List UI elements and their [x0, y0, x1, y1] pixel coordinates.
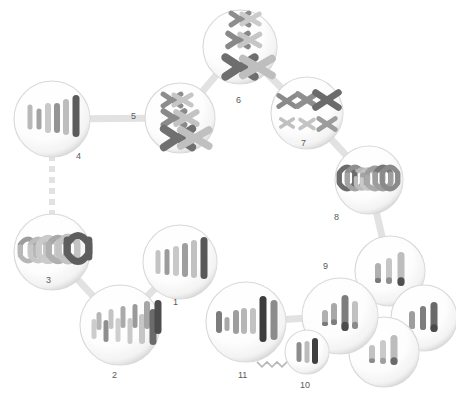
chromosome: [331, 303, 337, 325]
chromosome: [63, 99, 69, 135]
chromosome: [233, 310, 239, 334]
chromosome: [409, 311, 415, 329]
chromosome: [37, 109, 42, 130]
chromosome: [369, 345, 375, 363]
label-4: 4: [76, 152, 81, 161]
chromosome: [420, 306, 426, 330]
cell-5-prophase-i[interactable]: [145, 83, 215, 153]
chromosome: [322, 310, 328, 326]
cell-2-prophase[interactable]: [80, 285, 162, 365]
chromosome: [250, 308, 256, 334]
chromosome: [431, 302, 438, 332]
chromosome: [128, 318, 133, 344]
chromosome: [297, 342, 302, 362]
flagellum-tail: [257, 362, 287, 367]
label-10: 10: [300, 381, 310, 390]
chromosome: [375, 263, 381, 283]
chromosome: [312, 338, 318, 364]
label-2: 2: [112, 371, 117, 380]
chromosome: [92, 319, 97, 339]
cell-4-interphase[interactable]: [14, 81, 90, 157]
cell-6-metaphase-i[interactable]: [203, 10, 277, 84]
label-5: 5: [131, 112, 136, 121]
cell-1-g1-cell[interactable]: [143, 225, 217, 299]
chromosome: [380, 340, 386, 364]
label-1: 1: [173, 298, 178, 307]
label-3: 3: [46, 276, 51, 285]
chromosome-set: [20, 235, 89, 261]
chromosome: [391, 335, 398, 365]
meiosis-cycle-diagram: 1234567891011: [0, 0, 456, 396]
chromosome: [305, 341, 310, 363]
label-6: 6: [236, 96, 241, 105]
chromosome: [201, 237, 208, 279]
chromosome: [73, 95, 80, 137]
chromosome: [133, 304, 138, 328]
label-7: 7: [301, 139, 306, 148]
chromosome: [121, 306, 126, 328]
label-8: 8: [334, 213, 339, 222]
cell-8-anaphase-ii[interactable]: [335, 146, 403, 214]
chromosome: [45, 103, 51, 133]
cell-membrane-sheen: [271, 77, 343, 149]
chromosome: [260, 296, 267, 342]
label-9: 9: [323, 262, 328, 271]
chromosome: [156, 250, 161, 274]
chromosome: [109, 309, 114, 329]
chromosome: [104, 320, 109, 342]
chromosome: [54, 103, 60, 133]
chromosome: [155, 300, 162, 334]
cell-11-zygote[interactable]: [206, 282, 286, 362]
chromosome: [241, 308, 247, 334]
chromosome: [182, 243, 188, 277]
chromosome: [342, 295, 349, 331]
chromosome: [271, 300, 278, 340]
chromosome: [165, 249, 170, 275]
chromosome: [386, 258, 392, 284]
chromosome: [398, 252, 405, 286]
chromosome: [352, 301, 358, 329]
chromosome: [216, 311, 222, 333]
chromosome: [97, 312, 102, 330]
cell-7-anaphase-i[interactable]: [271, 77, 343, 149]
chromosome-set: [339, 167, 398, 189]
label-11: 11: [238, 371, 247, 380]
chromosome: [225, 317, 230, 331]
chromosome: [191, 240, 197, 278]
chromosome: [28, 105, 33, 130]
diagram-canvas: [0, 0, 456, 396]
chromosome: [173, 246, 179, 276]
cell-3-anaphase[interactable]: [14, 214, 90, 290]
chromosome: [116, 318, 121, 342]
chromosome: [144, 301, 150, 329]
